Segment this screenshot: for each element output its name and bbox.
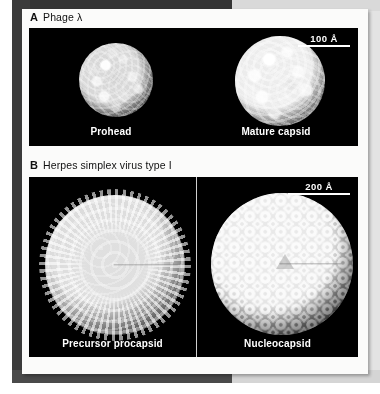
- scale-bar-label-a: 100 Å: [298, 33, 350, 44]
- mature-capsid-texture: [235, 36, 325, 126]
- scale-bar-line-a: [298, 45, 350, 47]
- caption-prohead: Prohead: [29, 126, 193, 137]
- hsv1-precursor-procapsid-render: [45, 195, 185, 335]
- mat-band-right-light: [368, 11, 380, 370]
- scale-bar-line-b: [288, 193, 350, 195]
- panel-b-title: Herpes simplex virus type I: [43, 159, 172, 171]
- figure-root: APhage λ 100 Å Prohead Mature capsid: [0, 0, 380, 394]
- phage-lambda-mature-capsid-render: [235, 36, 325, 126]
- panel-b-letter: B: [30, 159, 38, 171]
- scale-bar-panel-b: 200 Å: [288, 181, 350, 195]
- mat-band-footer: [0, 383, 380, 394]
- panel-a-title: Phage λ: [43, 11, 82, 23]
- caption-mature-capsid: Mature capsid: [194, 126, 358, 137]
- panel-b-image-box: 200 Å Precursor procapsid Nucleocapsid: [29, 177, 358, 357]
- scale-bar-label-b: 200 Å: [288, 181, 350, 192]
- figure-page: APhage λ 100 Å Prohead Mature capsid: [22, 9, 368, 374]
- panel-a-header: APhage λ: [30, 11, 82, 23]
- nucleocapsid-asymmetric-unit-marker: [276, 254, 294, 269]
- caption-nucleocapsid: Nucleocapsid: [197, 338, 358, 349]
- hsv1-nucleocapsid-render: [211, 193, 353, 335]
- nucleocapsid-axis-marker: [280, 263, 342, 264]
- panel-a-letter: A: [30, 11, 38, 23]
- caption-precursor-procapsid: Precursor procapsid: [29, 338, 196, 349]
- panel-a-image-box: 100 Å Prohead Mature capsid: [29, 28, 358, 146]
- prohead-texture: [79, 43, 153, 117]
- panel-b-right-cell: [197, 177, 358, 357]
- scale-bar-panel-a: 100 Å: [298, 33, 350, 47]
- panel-b-header: BHerpes simplex virus type I: [30, 159, 172, 171]
- phage-lambda-prohead-render: [79, 43, 153, 117]
- procapsid-axis-marker: [114, 264, 178, 265]
